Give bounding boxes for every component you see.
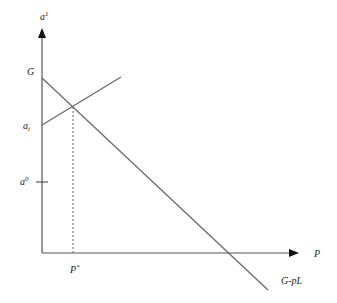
label-p-star: P* (69, 263, 80, 275)
y-axis-label: a1 (40, 10, 49, 22)
descending-line-g-pl (42, 78, 268, 290)
label-g-pl: G-pL (281, 275, 303, 286)
label-ai: ai (23, 120, 30, 133)
diagram: a1 G ai a0 P* P G-pL (0, 0, 337, 303)
label-a0: a0 (20, 175, 29, 187)
y-axis-arrow-icon (38, 28, 46, 38)
x-axis-label: P (313, 248, 320, 259)
ascending-line-ai (42, 77, 121, 125)
label-g: G (27, 66, 34, 77)
x-axis-arrow-icon (289, 249, 299, 257)
